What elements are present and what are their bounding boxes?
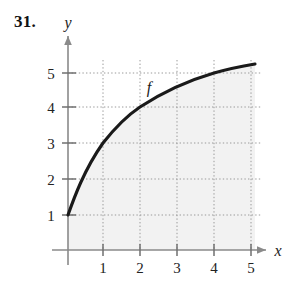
y-tick-label-4: 4 [47,100,55,116]
x-axis-arrowhead [257,246,266,254]
y-tick-label-2: 2 [47,172,55,188]
figure-container: 31. [0,0,291,281]
x-tick-label-1: 1 [99,260,107,276]
y-tick-label-1: 1 [47,208,55,224]
y-axis-ticks [62,73,76,215]
y-tick-label-5: 5 [47,66,55,82]
y-tick-label-3: 3 [47,136,55,152]
graph-plot: 1 2 3 4 5 1 2 3 4 5 y x f [0,0,291,281]
curve-label-f: f [147,79,154,97]
x-tick-label-5: 5 [247,260,255,276]
x-tick-label-3: 3 [173,260,181,276]
y-axis-label: y [62,14,72,32]
x-axis-label: x [273,242,281,259]
x-tick-label-4: 4 [210,260,218,276]
y-axis-arrowhead [64,36,72,45]
x-tick-label-2: 2 [136,260,144,276]
shaded-region-under-curve [68,64,255,250]
